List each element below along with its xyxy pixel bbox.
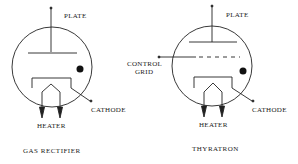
heater-filament: [42, 84, 60, 108]
thyratron-caption: THYRATRON: [192, 145, 239, 153]
thyratron-tube: [158, 5, 254, 117]
heater-arrow-right-icon: [220, 106, 225, 117]
control-grid-label-line1: CONTROL: [127, 60, 162, 68]
control-grid-terminal-dot: [158, 56, 160, 58]
cathode-terminal-dot: [252, 100, 254, 102]
heater-label: HEATER: [37, 122, 66, 130]
cathode-terminal-dot: [90, 100, 92, 102]
plate-terminal-dot: [50, 7, 52, 9]
cathode-label: CATHODE: [91, 106, 126, 114]
cathode-electrode: [194, 77, 252, 101]
gas-dot-icon: [77, 66, 84, 73]
plate-terminal-dot: [211, 5, 213, 7]
heater-arrow-left-icon: [40, 107, 45, 118]
plate-label: PLATE: [64, 12, 87, 20]
gas-rectifier-tube: [12, 7, 92, 118]
cathode-label: CATHODE: [252, 106, 287, 114]
plate-label: PLATE: [226, 11, 249, 19]
heater-label: HEATER: [199, 121, 228, 129]
gas-rectifier-caption: GAS RECTIFIER: [23, 147, 81, 155]
cathode-electrode: [32, 78, 90, 101]
gas-dot-icon: [240, 68, 247, 75]
control-grid-label-line2: GRID: [135, 68, 153, 76]
heater-arrow-right-icon: [58, 107, 63, 118]
heater-arrow-left-icon: [202, 106, 207, 117]
heater-filament: [204, 83, 222, 107]
tube-diagrams: PLATE CATHODE HEATER GAS RECTIFIER PLATE…: [0, 0, 298, 164]
